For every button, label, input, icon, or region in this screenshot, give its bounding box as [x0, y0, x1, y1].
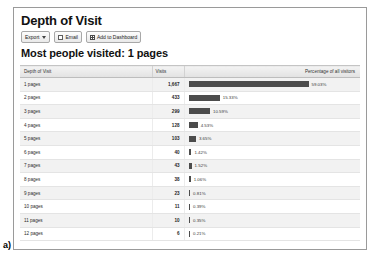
- percentage-bar: [189, 163, 192, 169]
- cell-visits: 11: [152, 200, 184, 214]
- column-header-visits[interactable]: Visits: [152, 66, 184, 78]
- percentage-bar: [189, 95, 220, 101]
- table-row[interactable]: 12 pages60.21%: [20, 227, 360, 241]
- percentage-bar-wrapper: 0.35%: [189, 217, 357, 223]
- figure-container: a) Depth of Visit Export Email Add to Da…: [0, 0, 376, 267]
- cell-visits: 103: [152, 132, 184, 146]
- add-to-dashboard-button[interactable]: Add to Dashboard: [86, 31, 141, 43]
- cell-visits: 10: [152, 213, 184, 227]
- percentage-label: 1.42%: [194, 150, 206, 155]
- percentage-label: 59.03%: [312, 82, 327, 87]
- cell-percentage: 15.33%: [184, 91, 360, 105]
- percentage-label: 0.35%: [193, 218, 205, 223]
- cell-percentage: 59.03%: [184, 78, 360, 92]
- email-button[interactable]: Email: [54, 31, 82, 43]
- report-panel: Depth of Visit Export Email Add to Dashb…: [13, 7, 367, 250]
- grid-icon: [90, 35, 95, 40]
- cell-depth: 6 pages: [20, 145, 152, 159]
- column-header-percentage[interactable]: Percentage of all visitors: [184, 66, 360, 78]
- cell-visits: 23: [152, 186, 184, 200]
- column-header-depth[interactable]: Depth of Visit: [20, 66, 152, 78]
- cell-visits: 38: [152, 173, 184, 187]
- cell-percentage: 0.35%: [184, 213, 360, 227]
- percentage-bar-wrapper: 4.53%: [189, 122, 357, 128]
- cell-visits: 43: [152, 159, 184, 173]
- percentage-bar: [189, 231, 191, 237]
- cell-depth: 5 pages: [20, 132, 152, 146]
- table-row[interactable]: 8 pages381.06%: [20, 173, 360, 187]
- report-toolbar: Export Email Add to Dashboard: [21, 31, 360, 43]
- chevron-down-icon: [42, 36, 46, 39]
- cell-visits: 1,667: [152, 78, 184, 92]
- table-row[interactable]: 2 pages43315.33%: [20, 91, 360, 105]
- percentage-bar-wrapper: 0.39%: [189, 204, 357, 210]
- cell-visits: 299: [152, 105, 184, 119]
- table-row[interactable]: 5 pages1033.65%: [20, 132, 360, 146]
- table-row[interactable]: 10 pages110.39%: [20, 200, 360, 214]
- percentage-bar: [189, 122, 198, 128]
- cell-percentage: 3.65%: [184, 132, 360, 146]
- percentage-bar-wrapper: 0.81%: [189, 190, 357, 196]
- table-row[interactable]: 9 pages230.81%: [20, 186, 360, 200]
- email-button-label: Email: [65, 32, 78, 42]
- cell-percentage: 1.42%: [184, 145, 360, 159]
- table-row[interactable]: 11 pages100.35%: [20, 213, 360, 227]
- cell-percentage: 10.59%: [184, 105, 360, 119]
- percentage-label: 0.21%: [193, 231, 205, 236]
- cell-depth: 9 pages: [20, 186, 152, 200]
- percentage-bar-wrapper: 10.59%: [189, 108, 357, 114]
- percentage-bar: [189, 149, 192, 155]
- cell-percentage: 1.52%: [184, 159, 360, 173]
- table-body: 1 pages1,66759.03%2 pages43315.33%3 page…: [20, 78, 360, 241]
- cell-depth: 10 pages: [20, 200, 152, 214]
- percentage-label: 1.06%: [194, 177, 206, 182]
- percentage-bar: [189, 108, 211, 114]
- percentage-label: 0.39%: [193, 204, 205, 209]
- cell-depth: 11 pages: [20, 213, 152, 227]
- percentage-label: 4.53%: [201, 123, 213, 128]
- cell-depth: 2 pages: [20, 91, 152, 105]
- table-row[interactable]: 6 pages401.42%: [20, 145, 360, 159]
- export-button[interactable]: Export: [21, 31, 50, 43]
- depth-of-visit-table: Depth of Visit Visits Percentage of all …: [20, 65, 360, 241]
- percentage-bar-wrapper: 1.42%: [189, 149, 357, 155]
- cell-percentage: 0.39%: [184, 200, 360, 214]
- cell-percentage: 1.06%: [184, 173, 360, 187]
- percentage-label: 3.65%: [199, 136, 211, 141]
- cell-depth: 8 pages: [20, 173, 152, 187]
- export-button-label: Export: [25, 32, 39, 42]
- cell-visits: 433: [152, 91, 184, 105]
- table-header-row: Depth of Visit Visits Percentage of all …: [20, 66, 360, 78]
- cell-percentage: 4.53%: [184, 118, 360, 132]
- percentage-bar: [189, 81, 309, 87]
- figure-label: a): [3, 240, 11, 250]
- percentage-bar-wrapper: 1.52%: [189, 163, 357, 169]
- cell-depth: 7 pages: [20, 159, 152, 173]
- percentage-label: 1.52%: [195, 163, 207, 168]
- percentage-bar-wrapper: 1.06%: [189, 176, 357, 182]
- table-row[interactable]: 3 pages29910.59%: [20, 105, 360, 119]
- table-row[interactable]: 4 pages1284.53%: [20, 118, 360, 132]
- cell-depth: 12 pages: [20, 227, 152, 241]
- summary-text: Most people visited: 1 pages: [21, 47, 360, 59]
- percentage-bar-wrapper: 59.03%: [189, 81, 357, 87]
- cell-visits: 128: [152, 118, 184, 132]
- page-title: Depth of Visit: [21, 14, 360, 28]
- percentage-bar: [189, 204, 191, 210]
- percentage-bar: [189, 190, 191, 196]
- cell-depth: 4 pages: [20, 118, 152, 132]
- cell-percentage: 0.21%: [184, 227, 360, 241]
- percentage-label: 15.33%: [223, 95, 238, 100]
- percentage-bar: [189, 176, 191, 182]
- cell-visits: 40: [152, 145, 184, 159]
- table-row[interactable]: 1 pages1,66759.03%: [20, 78, 360, 92]
- envelope-icon: [58, 35, 63, 40]
- cell-visits: 6: [152, 227, 184, 241]
- percentage-bar: [189, 136, 196, 142]
- percentage-label: 10.59%: [213, 109, 228, 114]
- cell-depth: 1 pages: [20, 78, 152, 92]
- add-to-dashboard-label: Add to Dashboard: [97, 32, 137, 42]
- percentage-bar-wrapper: 3.65%: [189, 136, 357, 142]
- table-row[interactable]: 7 pages431.52%: [20, 159, 360, 173]
- cell-percentage: 0.81%: [184, 186, 360, 200]
